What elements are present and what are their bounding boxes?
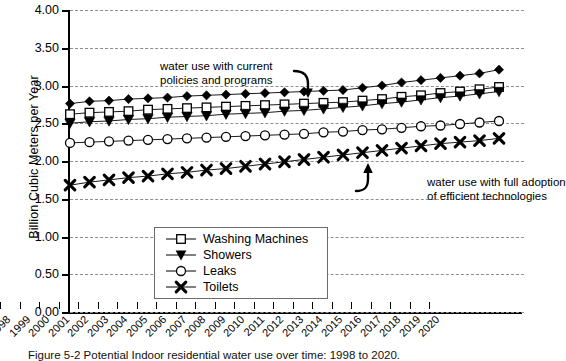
x-axis-tick xyxy=(293,302,294,309)
legend-marker xyxy=(165,232,197,246)
data-point xyxy=(104,96,113,105)
data-point xyxy=(66,138,75,147)
x-axis-tick xyxy=(176,302,177,309)
hook-arrow-down-icon xyxy=(292,68,318,100)
y-axis-tick-label: 4.00 xyxy=(35,3,59,17)
x-axis-tick xyxy=(273,302,274,309)
data-point xyxy=(280,88,289,97)
x-axis-tick xyxy=(410,302,411,309)
data-point xyxy=(475,69,484,78)
x-axis-tick xyxy=(117,302,118,309)
data-point xyxy=(202,133,211,142)
legend-marker-open-circle-icon xyxy=(165,264,197,278)
data-point xyxy=(222,132,231,141)
data-point xyxy=(358,83,367,92)
legend-item-showers[interactable]: Showers xyxy=(155,247,327,263)
data-point xyxy=(144,105,153,114)
data-point xyxy=(436,73,445,82)
data-point xyxy=(495,116,504,125)
data-point xyxy=(494,65,503,74)
legend-item-label: Leaks xyxy=(203,264,236,278)
x-axis-tick xyxy=(39,302,40,309)
y-axis-tick-label: 2.50 xyxy=(35,116,59,130)
y-axis-tick xyxy=(62,10,70,12)
data-point xyxy=(85,108,94,117)
data-point xyxy=(143,94,152,103)
x-axis-tick xyxy=(137,302,138,309)
y-axis-tick-label: 3.50 xyxy=(35,41,59,55)
legend-item-label: Washing Machines xyxy=(203,232,308,246)
legend-item-leaks[interactable]: Leaks xyxy=(155,263,327,279)
data-point xyxy=(105,137,114,146)
y-axis-tick-label: 3.00 xyxy=(35,79,59,93)
x-axis-tick xyxy=(215,302,216,309)
y-axis-tick-label: 2.00 xyxy=(35,154,59,168)
y-axis-tick-label: 1.50 xyxy=(35,192,59,206)
legend-marker xyxy=(165,280,197,294)
data-point xyxy=(300,129,309,138)
data-point xyxy=(182,91,191,100)
data-point xyxy=(338,85,347,94)
data-point xyxy=(221,90,230,99)
legend-item-label: Showers xyxy=(203,248,252,262)
chart-legend: Washing MachinesShowersLeaksToilets xyxy=(154,227,328,299)
annotation-efficient-technologies: water use with full adoption of efficien… xyxy=(427,176,566,203)
y-axis-tick xyxy=(62,161,70,163)
x-axis-ticks: 1998199920002001200220032004200520062007… xyxy=(0,302,452,348)
data-point xyxy=(85,138,94,147)
legend-marker-bold-cross-icon xyxy=(165,280,197,294)
data-point xyxy=(456,120,465,129)
legend-marker xyxy=(165,264,197,278)
data-point xyxy=(397,78,406,87)
x-axis-tick xyxy=(390,302,391,309)
data-point xyxy=(436,121,445,130)
x-axis-tick xyxy=(98,302,99,309)
x-axis-tick xyxy=(59,302,60,309)
data-point xyxy=(261,131,270,140)
data-point xyxy=(163,135,172,144)
data-point xyxy=(163,93,172,102)
annotation-current-policies: water use with current policies and prog… xyxy=(160,60,273,87)
y-axis-tick-label: 1.00 xyxy=(35,230,59,244)
data-point xyxy=(358,126,367,135)
data-point xyxy=(183,134,192,143)
data-point xyxy=(241,102,250,111)
x-axis-tick xyxy=(78,302,79,309)
x-axis-tick xyxy=(234,302,235,309)
x-axis-tick xyxy=(254,302,255,309)
y-axis-tick xyxy=(62,237,70,239)
data-point xyxy=(202,91,211,100)
legend-marker xyxy=(165,248,197,262)
data-point xyxy=(455,71,464,80)
x-axis-tick xyxy=(371,302,372,309)
x-axis-tick xyxy=(351,302,352,309)
data-point xyxy=(417,122,426,131)
y-axis-tick xyxy=(62,199,70,201)
x-axis-tick xyxy=(312,302,313,309)
data-point xyxy=(416,76,425,85)
legend-marker-filled-triangle-down-icon xyxy=(165,248,197,262)
data-point xyxy=(319,86,328,95)
data-point xyxy=(85,97,94,106)
data-point xyxy=(183,104,192,113)
y-axis-tick-label: 0.50 xyxy=(35,267,59,281)
data-point xyxy=(397,123,406,132)
data-point xyxy=(105,108,114,117)
y-axis-tick xyxy=(62,274,70,276)
x-axis-tick xyxy=(156,302,157,309)
x-axis-tick xyxy=(20,302,21,309)
x-axis-tick xyxy=(0,302,1,309)
data-point xyxy=(124,94,133,103)
data-point xyxy=(124,107,133,116)
data-point xyxy=(280,130,289,139)
y-axis-tick xyxy=(62,48,70,50)
legend-item-toilets[interactable]: Toilets xyxy=(155,279,327,295)
x-axis-tick xyxy=(332,302,333,309)
data-point xyxy=(241,132,250,141)
data-point xyxy=(261,101,270,110)
data-point xyxy=(202,103,211,112)
data-point xyxy=(144,135,153,144)
legend-item-washing-machines[interactable]: Washing Machines xyxy=(155,231,327,247)
data-point xyxy=(378,125,387,134)
data-point xyxy=(163,105,172,114)
